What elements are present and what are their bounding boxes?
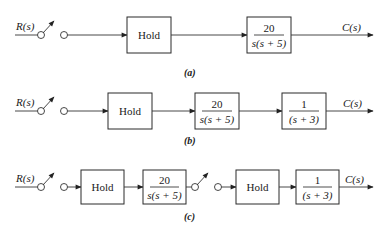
tf-denominator: (s + 3): [302, 189, 332, 202]
switch-arm-icon: [43, 21, 54, 33]
switch-contact-right: [61, 108, 68, 115]
output-label-c: C(s): [342, 21, 361, 34]
transfer-function-block: 20 s(s + 5): [195, 93, 239, 129]
transfer-function-block: 20 s(s + 5): [143, 170, 186, 204]
switch-arm-icon: [197, 173, 208, 185]
input-label-r: R(s): [15, 96, 35, 109]
tf-numerator: 1: [315, 174, 321, 186]
output-label-c: C(s): [345, 173, 364, 186]
hold-label: Hold: [119, 105, 142, 117]
block-diagrams: R(s) Hold 20 s(s + 5) C(s) (a) R(s): [0, 0, 382, 229]
transfer-function-block: 20 s(s + 5): [247, 17, 291, 53]
tf-denominator: (s + 3): [289, 113, 319, 126]
input-label-r: R(s): [15, 20, 35, 33]
input-label-r: R(s): [15, 172, 35, 185]
sampler-switch: [38, 97, 68, 115]
tf-denominator: s(s + 5): [200, 113, 235, 126]
tf-numerator: 20: [264, 22, 276, 34]
tf-denominator: s(s + 5): [147, 189, 182, 202]
hold-block: Hold: [108, 93, 152, 129]
caption-a: (a): [184, 67, 196, 79]
diagram-a: R(s) Hold 20 s(s + 5) C(s) (a): [15, 17, 373, 79]
caption-b: (b): [184, 135, 196, 147]
tf-numerator: 20: [159, 174, 171, 186]
sampler-switch: [38, 21, 68, 39]
hold-block: Hold: [81, 170, 124, 204]
switch-arm-icon: [43, 173, 54, 185]
caption-c: (c): [184, 211, 195, 223]
sampler-switch: [38, 173, 68, 191]
tf-numerator: 20: [212, 98, 224, 110]
switch-contact-right: [61, 184, 68, 191]
output-label-c: C(s): [343, 97, 362, 110]
switch-contact-right: [61, 32, 68, 39]
diagram-b: R(s) Hold 20 s(s + 5) 1 (s + 3) C(s) (b): [15, 93, 373, 147]
switch-contact-right: [215, 184, 222, 191]
sampler-switch-2: [192, 173, 222, 191]
hold-block-2: Hold: [236, 170, 279, 204]
tf-numerator: 1: [301, 98, 307, 110]
transfer-function-block-2: 1 (s + 3): [296, 170, 339, 204]
hold-block: Hold: [127, 17, 171, 53]
hold-label: Hold: [92, 181, 115, 193]
hold-label: Hold: [247, 181, 270, 193]
hold-label: Hold: [138, 29, 161, 41]
tf-denominator: s(s + 5): [252, 37, 287, 50]
diagram-c: R(s) Hold 20 s(s + 5) Hold: [15, 170, 373, 223]
transfer-function-block: 1 (s + 3): [282, 93, 326, 129]
switch-arm-icon: [43, 97, 54, 109]
